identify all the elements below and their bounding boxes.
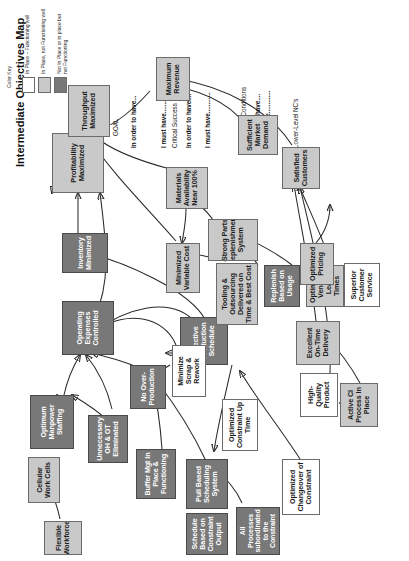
hierarchy-label-order-2: In order to have.... xyxy=(185,94,192,148)
swatch-light-gray xyxy=(38,77,51,93)
swatch-dark-gray xyxy=(54,77,67,93)
color-key-heading: Color Key xyxy=(6,66,12,88)
node-inventory-minimized[interactable]: Inventory Minimized xyxy=(62,233,108,273)
color-key-label-1: In Place, not Functioning well xyxy=(40,9,46,74)
node-strong-parts-replenishment-system[interactable]: Strong Parts Replenishment System xyxy=(208,219,258,261)
node-minimized-variable-cost[interactable]: Minimized Variable Cost xyxy=(166,243,200,293)
diagram-canvas: Intermediate Objectives Map Color Key In… xyxy=(0,0,409,561)
node-schedule-based-on-constraint-output[interactable]: Schedule Based on Constraint Output xyxy=(186,513,228,555)
node-all-processes-subordinated[interactable]: All Processes subordinated to the Constr… xyxy=(236,507,280,555)
node-optimized-constraint-up-time[interactable]: Optimized Constraint Up Time xyxy=(222,399,258,451)
node-optimized-pricing[interactable]: Optimized Pricing xyxy=(300,243,334,285)
node-flexible-workforce[interactable]: Flexible Workforce xyxy=(44,521,82,555)
node-minimize-scrap-rework[interactable]: Minimize Scrap & Rework xyxy=(172,345,206,397)
diagram-rotated-layer: Intermediate Objectives Map Color Key In… xyxy=(0,0,409,561)
hierarchy-label-goal: GOAL xyxy=(112,119,119,137)
node-high-quality-product[interactable]: High-Quality Product xyxy=(300,373,338,417)
node-superior-customer-service[interactable]: Superior Customer Service xyxy=(344,263,380,307)
node-sufficient-market-demand[interactable]: Sufficient Market Demand xyxy=(238,115,278,155)
color-key-label-0: In Place – Functioning well xyxy=(24,15,30,74)
node-unnecessary-oh-ot-eliminated[interactable]: Unnecessary OH & OT Eliminated xyxy=(88,415,128,463)
swatch-white xyxy=(22,77,35,93)
node-pull-based-scheduling-system[interactable]: Pull Based Scheduling System xyxy=(186,459,228,509)
node-throughput-maximized[interactable]: Throughput Maximized xyxy=(68,85,110,137)
node-profitability-maximized[interactable]: Profitability Maximized xyxy=(52,133,104,193)
node-optimum-manpower-staffing[interactable]: Optimum Manpower Staffing xyxy=(30,395,74,449)
node-buffer-mgt-in-place[interactable]: Buffer Mgt In Place & Functioning xyxy=(136,449,176,499)
node-optimized-changeover-of-constraint[interactable]: Optimized Changeover of Constraint xyxy=(282,459,320,515)
node-no-over-production[interactable]: No Over-Production xyxy=(130,365,166,409)
node-excellent-on-time-delivery[interactable]: Excellent On-Time Delivery xyxy=(296,321,340,365)
hierarchy-label-order-1: In order to have... xyxy=(130,96,137,148)
node-active-ci-process-in-place[interactable]: Active CI Process In Place xyxy=(340,383,378,427)
node-maximum-revenue[interactable]: Maximum Revenue xyxy=(156,57,190,101)
node-operating-expenses-controlled[interactable]: Operating Expenses Controlled xyxy=(62,301,114,355)
node-cellular-work-cells[interactable]: Cellular Work Cells xyxy=(28,457,60,503)
node-tooling-outsourcing[interactable]: Tooling & Outsourcing Delivered on Time … xyxy=(216,263,258,325)
color-key-label-2: Not In Place or in place but not Functio… xyxy=(56,12,69,74)
node-replenish-based-on-usage[interactable]: Replenish Based on Usage xyxy=(264,265,300,307)
node-satisfied-customers[interactable]: Satisfied Customers xyxy=(282,147,320,189)
hierarchy-label-lower: Lower-Level NC's xyxy=(292,99,299,149)
node-materials-availability[interactable]: Materials Availability Near 100% xyxy=(166,167,208,209)
hierarchy-label-must-2: I must have............ xyxy=(204,92,211,148)
